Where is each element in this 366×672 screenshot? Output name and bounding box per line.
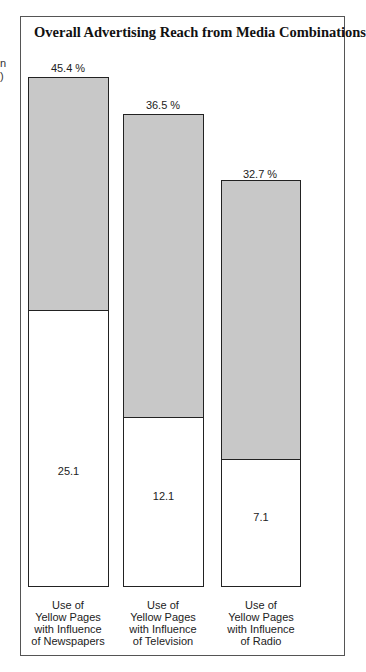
chart-title: Overall Advertising Reach from Media Com… xyxy=(34,24,366,41)
category-label-newspapers: Use ofYellow Pageswith Influenceof Newsp… xyxy=(13,599,123,647)
cropped-edge-text-2: ) xyxy=(0,70,4,82)
bar-2-total-label: 36.5 % xyxy=(118,99,208,111)
bar-1-lower-label: 25.1 xyxy=(29,465,108,477)
bar-2-lower-label: 12.1 xyxy=(124,490,203,502)
bar-3-upper-segment xyxy=(222,181,300,460)
bar-radio: 7.1 xyxy=(221,180,301,587)
category-label-radio: Use ofYellow Pageswith Influenceof Radio xyxy=(206,599,316,647)
bar-1-upper-segment xyxy=(29,78,108,311)
bar-2-upper-segment xyxy=(124,115,203,418)
cropped-edge-text-1: n xyxy=(0,57,6,69)
bar-television: 12.1 xyxy=(123,114,204,587)
bar-newspapers: 25.1 xyxy=(28,77,109,587)
category-label-television: Use ofYellow Pageswith Influenceof Telev… xyxy=(108,599,218,647)
bar-3-lower-label: 7.1 xyxy=(222,511,300,523)
bar-3-total-label: 32.7 % xyxy=(215,168,305,180)
bar-1-total-label: 45.4 % xyxy=(23,62,113,74)
